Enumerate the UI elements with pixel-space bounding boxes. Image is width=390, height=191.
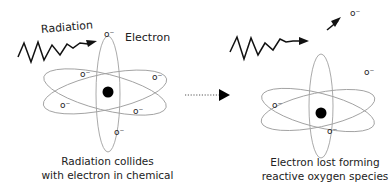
left-nucleus (103, 87, 114, 98)
right-radiation-arrowhead-icon (299, 37, 309, 45)
left-radiation-arrowhead-icon (86, 40, 97, 47)
right-ejected-electron: o⁻ (350, 8, 360, 18)
right-electron-2: o⁻ (272, 100, 282, 110)
right-caption-line2: reactive oxygen species (260, 169, 390, 183)
left-radiation-wave-icon (18, 42, 88, 62)
transition-arrowhead-icon (219, 89, 230, 101)
left-electron-4: o⁻ (133, 106, 143, 116)
right-nucleus (316, 108, 327, 119)
left-caption: Radiation collides with electron in chem… (40, 154, 175, 182)
left-electron-1: o⁻ (80, 69, 90, 79)
left-electron-3: o⁻ (60, 100, 70, 110)
right-caption: Electron lost forming reactive oxygen sp… (260, 155, 390, 183)
left-electron-5: o⁻ (114, 127, 124, 137)
left-caption-line1: Radiation collides (40, 154, 175, 168)
electron-label: Electron (125, 31, 170, 44)
right-caption-line1: Electron lost forming (260, 155, 390, 169)
orbit-vertical (309, 54, 333, 158)
left-caption-line2: with electron in chemical (40, 168, 175, 182)
right-radiation-wave-icon (230, 37, 301, 59)
left-electron-2: o⁻ (152, 72, 162, 82)
right-electron-1: o⁻ (364, 67, 374, 77)
left-electron-top: o⁻ (104, 29, 114, 39)
right-electron-3: o⁻ (327, 126, 337, 136)
